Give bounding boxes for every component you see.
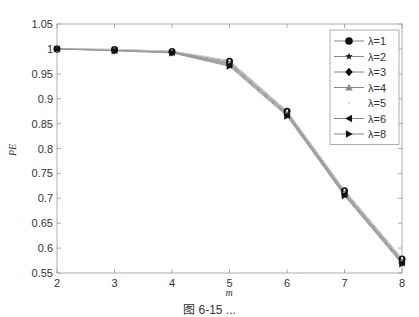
y-tick-label: 0.7 xyxy=(38,192,53,204)
legend-entry-label: λ=1 xyxy=(368,35,386,47)
y-tick-label: 0.9 xyxy=(38,93,53,105)
y-tick-label: 0.6 xyxy=(38,242,53,254)
y-tick-label: 0.8 xyxy=(38,143,53,155)
line-chart: 0.550.60.650.70.750.80.850.90.9511.05 23… xyxy=(0,0,419,300)
y-tick-label: 0.95 xyxy=(32,68,53,80)
legend-entry-label: λ=5 xyxy=(368,97,386,109)
y-tick-label: 0.75 xyxy=(32,167,53,179)
x-tick-label: 4 xyxy=(169,277,175,289)
x-tick-label: 2 xyxy=(54,277,60,289)
x-tick-label: 7 xyxy=(341,277,347,289)
legend-entry-label: λ=3 xyxy=(368,66,386,78)
y-tick-label: 0.85 xyxy=(32,118,53,130)
y-axis-label: PE xyxy=(7,144,18,157)
figure-caption: 图 6-15 ... xyxy=(0,300,419,317)
x-tick-label: 3 xyxy=(111,277,117,289)
y-tick-label: 0.55 xyxy=(32,267,53,279)
legend-entry-label: λ=6 xyxy=(368,113,386,125)
legend-entry-label: λ=8 xyxy=(368,128,386,140)
y-tick-label: 0.65 xyxy=(32,217,53,229)
y-tick-label: 1 xyxy=(47,43,53,55)
legend-entry-label: λ=4 xyxy=(368,82,386,94)
legend-entry-label: λ=2 xyxy=(368,51,386,63)
x-axis-label: m xyxy=(225,287,232,298)
x-tick-label: 6 xyxy=(284,277,290,289)
x-tick-label: 8 xyxy=(399,277,405,289)
y-tick-label: 1.05 xyxy=(32,18,53,30)
legend: λ=1λ=2λ=3λ=4λ=5λ=6λ=8 xyxy=(330,30,399,145)
